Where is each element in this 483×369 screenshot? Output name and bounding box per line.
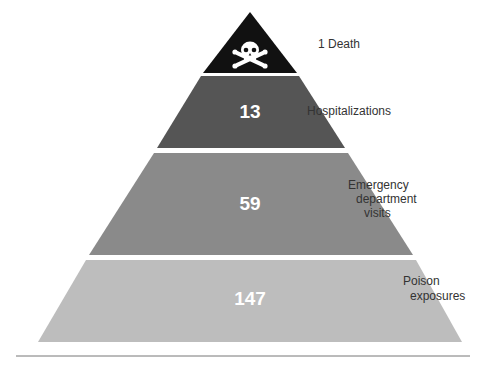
tier-value-poison-exposures: 147 (210, 288, 290, 310)
label-hospitalizations: Hospitalizations (307, 104, 391, 118)
tier-value-emergency-visits: 59 (210, 193, 290, 215)
label-emergency-line2: department (356, 192, 417, 206)
tier-value-hospitalizations: 13 (210, 101, 290, 123)
label-death: 1 Death (318, 37, 360, 51)
pyramid-diagram (0, 0, 483, 369)
label-emergency-line3: visits (364, 206, 391, 220)
label-emergency-line1: Emergency (348, 178, 409, 192)
label-poison-line1: Poison (403, 274, 440, 288)
label-poison-line2: exposures (410, 289, 465, 303)
